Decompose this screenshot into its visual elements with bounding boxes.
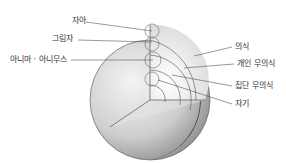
label-ego: 자아: [72, 16, 86, 26]
label-consciousness: 의식: [235, 42, 249, 52]
label-collective-unconscious: 집단 무의식: [235, 81, 273, 91]
cutaway: [150, 25, 209, 100]
label-self: 자기: [235, 99, 249, 109]
label-personal-unconscious: 개인 무의식: [237, 59, 275, 69]
label-anima-animus: 아니마 · 아니무스: [10, 55, 67, 65]
label-shadow: 그림자: [52, 34, 73, 44]
